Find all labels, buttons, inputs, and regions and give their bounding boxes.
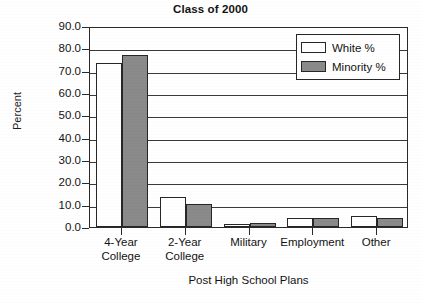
y-axis-tick-label: 20.0 (33, 177, 81, 189)
legend-swatch-white-icon (301, 42, 326, 53)
x-axis-category-label: Other (338, 236, 414, 250)
y-axis-tick-mark (82, 228, 89, 229)
legend-swatch-minority-icon (301, 61, 326, 72)
x-axis-tick-mark (185, 228, 186, 235)
bar-minority (313, 218, 339, 227)
y-axis-tick-mark (82, 183, 89, 184)
y-axis-tick-label: 80.0 (33, 43, 81, 55)
x-axis-tick-mark (249, 228, 250, 235)
x-axis-tick-mark (312, 228, 313, 235)
y-axis-tick-mark (82, 72, 89, 73)
legend-label-white: White % (332, 42, 375, 54)
legend-item-minority: Minority % (301, 57, 395, 76)
bar-minority (122, 55, 148, 227)
x-axis-tick-mark (376, 228, 377, 235)
y-axis-tick-mark (82, 94, 89, 95)
y-axis-tick-label: 30.0 (33, 155, 81, 167)
bar-white (351, 216, 377, 227)
bar-chart: Class of 2000 Percent 90.080.070.060.050… (0, 0, 421, 303)
bar-white (96, 63, 122, 227)
y-axis-tick-mark (82, 116, 89, 117)
x-axis-title: Post High School Plans (89, 274, 408, 286)
y-axis-tick-label: 0.0 (33, 222, 81, 234)
y-axis-tick-label: 10.0 (33, 200, 81, 212)
y-axis-tick-mark (82, 49, 89, 50)
bar-white (224, 224, 250, 227)
y-axis-tick-mark (82, 161, 89, 162)
y-axis-tick-mark (82, 206, 89, 207)
y-axis-tick-mark (82, 139, 89, 140)
legend-label-minority: Minority % (332, 61, 386, 73)
bar-white (287, 218, 313, 227)
legend-item-white: White % (301, 38, 395, 57)
bar-white (160, 197, 186, 227)
bar-minority (377, 218, 403, 227)
y-axis-tick-label: 40.0 (33, 133, 81, 145)
x-axis-tick-mark (121, 228, 122, 235)
y-axis-tick-label: 60.0 (33, 88, 81, 100)
y-axis-tick-label: 90.0 (33, 21, 81, 33)
y-axis-tick-label: 70.0 (33, 66, 81, 78)
y-axis-tick-label: 50.0 (33, 110, 81, 122)
bar-minority (250, 223, 276, 227)
y-axis-title: Percent (11, 76, 23, 146)
bar-minority (186, 204, 212, 227)
y-axis-tick-labels: 90.080.070.060.050.040.030.020.010.00.0 (26, 0, 81, 303)
y-axis-tick-mark (82, 27, 89, 28)
chart-legend: White % Minority % (296, 34, 400, 80)
